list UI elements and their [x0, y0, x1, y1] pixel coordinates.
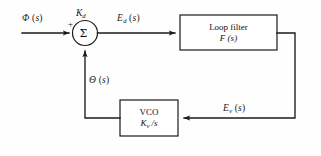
summer-input-sign: + — [68, 20, 73, 29]
vco-label: VCO Kv /s — [120, 107, 178, 129]
label-feedback-voltage-subscript: v — [229, 107, 232, 114]
vco-name: VCO — [120, 107, 178, 118]
label-feedback-voltage: Ev (s) — [223, 104, 245, 114]
pll-block-diagram: Φ (s) + Kd Σ Ed (s) Loop filter F (s) VC… — [0, 0, 321, 156]
label-feedback-phase: Θ (s) — [89, 76, 109, 86]
loop-filter-label: Loop filter F (s) — [180, 22, 277, 44]
label-error-subscript: d — [123, 17, 127, 24]
vco-transfer: Kv /s — [120, 118, 178, 129]
loop-filter-name: Loop filter — [180, 22, 277, 33]
label-error-signal: Ed (s) — [117, 14, 140, 24]
label-detector-gain-subscript: d — [82, 12, 85, 19]
label-input-signal: Φ (s) — [22, 14, 43, 24]
loop-filter-transfer: F (s) — [180, 33, 277, 44]
label-feedback-phase-symbol: Θ — [89, 75, 96, 85]
sigma-icon: Σ — [80, 28, 88, 39]
label-detector-gain: Kd — [76, 9, 86, 19]
